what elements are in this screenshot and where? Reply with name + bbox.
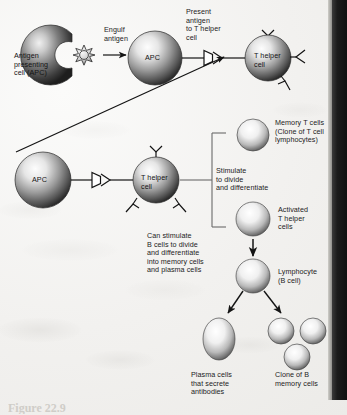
label-can-stimulate-b-cells: Can stimulate B cells to divide and diff… <box>147 232 204 275</box>
figure-page: Antigen presenting cell (APC) Engulf ant… <box>0 0 347 415</box>
label-apc-top: APC <box>145 54 160 63</box>
label-present-antigen: Present antigen to T helper cell <box>186 8 221 42</box>
activated-t-helper-cell <box>236 202 270 236</box>
label-apc-mid: APC <box>32 176 47 185</box>
label-activated-t-helper: Activated T helper cells <box>278 206 308 232</box>
plasma-cell <box>203 318 235 360</box>
label-t-helper-top: T helper cell <box>254 52 281 69</box>
label-antigen-presenting-cell: Antigen presenting cell (APC) <box>14 52 48 78</box>
figure-caption: Figure 22.9 <box>8 401 66 414</box>
label-stimulate-divide: Stimulate to divide and differentiate <box>216 167 268 193</box>
page-edge-band <box>332 0 347 400</box>
b-memory-cell-1 <box>268 318 294 344</box>
b-memory-cell-2 <box>300 318 326 344</box>
label-t-helper-mid: T helper cell <box>141 174 168 191</box>
present-antigen-arrow <box>182 51 246 66</box>
apc-to-thelper-mid-arrow <box>71 173 134 188</box>
lymphocyte-to-plasma-arrow <box>228 291 243 313</box>
label-clone-b-memory-cells: Clone of B memory cells <box>275 371 318 388</box>
antigen-star-icon <box>73 45 95 65</box>
label-lymphocyte-b-cell: Lymphocyte (B cell) <box>278 268 317 285</box>
label-plasma-cells: Plasma cells that secrete antibodies <box>191 371 232 397</box>
label-memory-t-cells: Memory T cells (Clone of T cell lymphocy… <box>275 119 324 145</box>
memory-t-cell <box>237 119 269 151</box>
lymphocyte-to-memory-arrow <box>264 291 281 313</box>
b-memory-cell-3 <box>284 344 310 370</box>
label-engulf-antigen: Engulf antigen <box>104 26 128 43</box>
lymphocyte-b-cell <box>236 259 270 293</box>
